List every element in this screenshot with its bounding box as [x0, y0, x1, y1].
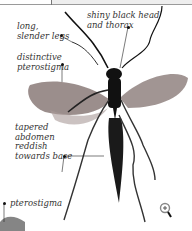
pointer-dot-pterostigma	[61, 63, 64, 66]
pointer-dot-head	[127, 26, 130, 29]
pointer-dot-abdomen	[63, 155, 66, 158]
magnifier-plus-icon	[159, 202, 173, 218]
label-legs: long, slender legs	[17, 22, 69, 41]
label-pterostigma-bottom: pterostigma	[10, 199, 62, 209]
pointer-dot-pterostigma-bottom	[3, 202, 6, 205]
zoom-in-button[interactable]	[159, 202, 173, 218]
pointer-dot-legs	[60, 34, 63, 37]
label-head-thorax: shiny black head and thorax	[87, 11, 159, 30]
